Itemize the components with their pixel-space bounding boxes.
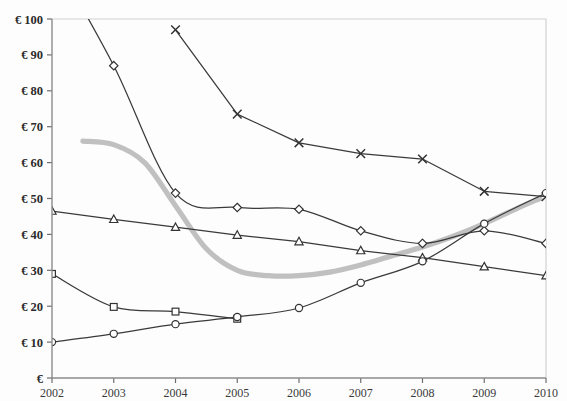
y-tick-label: € 60 [21, 156, 43, 170]
data-point-circle-marker [234, 313, 241, 320]
x-tick-label: 2004 [164, 386, 188, 400]
data-point-diamond-marker [110, 61, 118, 69]
x-tick-label: 2006 [287, 386, 311, 400]
data-point-diamond-marker [542, 239, 550, 247]
y-axis-ticks: €€ 10€ 20€ 30€ 40€ 50€ 60€ 70€ 80€ 90€ 1… [15, 13, 52, 386]
series-line-path [52, 193, 546, 342]
axes [52, 19, 546, 378]
x-tick-label: 2008 [411, 386, 435, 400]
series-line-path [52, 274, 237, 319]
data-point-circle-marker [357, 279, 364, 286]
data-point-circle-marker [542, 190, 549, 197]
series-square [49, 270, 241, 322]
plot-frame [52, 19, 546, 378]
data-point-circle-marker [419, 258, 426, 265]
data-point-circle-marker [295, 304, 302, 311]
data-point-circle-marker [172, 321, 179, 328]
data-point-x-marker [233, 110, 242, 119]
y-tick-label: € 80 [21, 84, 43, 98]
series-triangle [48, 207, 550, 279]
y-tick-label: € 30 [21, 264, 43, 278]
trend-line-path [83, 141, 540, 276]
plot-border [52, 19, 546, 378]
y-tick-label: € 50 [21, 192, 43, 206]
y-tick-label: € 100 [15, 13, 43, 27]
series-trend-grey [83, 141, 540, 276]
x-tick-label: 2003 [102, 386, 126, 400]
x-tick-label: 2010 [534, 386, 558, 400]
y-tick-label: € 70 [21, 120, 43, 134]
y-tick-label: € 10 [21, 336, 43, 350]
data-point-diamond-marker [295, 205, 303, 213]
data-point-circle-marker [110, 330, 117, 337]
x-axis-ticks: 200220032004200520062007200820092010 [40, 378, 558, 400]
data-point-square-marker [172, 308, 179, 315]
data-point-diamond-marker [233, 203, 241, 211]
x-tick-label: 2009 [472, 386, 496, 400]
x-tick-label: 2007 [349, 386, 373, 400]
x-tick-label: 2005 [225, 386, 249, 400]
data-point-square-marker [110, 304, 117, 311]
series-line-path [176, 30, 547, 197]
data-point-circle-marker [481, 220, 488, 227]
series-diamond [52, 0, 550, 248]
y-tick-label: € [37, 372, 44, 386]
series-layer [48, 0, 550, 346]
y-tick-label: € 40 [21, 228, 43, 242]
series-cross [171, 25, 550, 201]
data-point-diamond-marker [357, 227, 365, 235]
data-point-diamond-marker [480, 227, 488, 235]
line-chart: €€ 10€ 20€ 30€ 40€ 50€ 60€ 70€ 80€ 90€ 1… [0, 0, 567, 401]
x-tick-label: 2002 [40, 386, 64, 400]
y-tick-label: € 20 [21, 300, 43, 314]
chart-canvas: €€ 10€ 20€ 30€ 40€ 50€ 60€ 70€ 80€ 90€ 1… [0, 0, 567, 401]
data-point-x-marker [171, 25, 180, 34]
y-tick-label: € 90 [21, 48, 43, 62]
